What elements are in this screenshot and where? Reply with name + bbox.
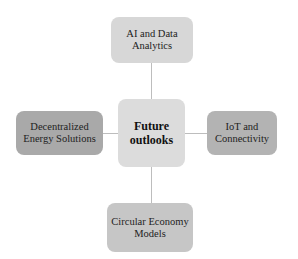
connector-top [151, 63, 152, 99]
node-left-label: Decentralized Energy Solutions [20, 121, 99, 145]
node-right: IoT and Connectivity [207, 111, 277, 155]
node-left: Decentralized Energy Solutions [16, 111, 103, 155]
connector-left [103, 133, 118, 134]
center-node: Future outlooks [118, 99, 185, 167]
center-node-label: Future outlooks [127, 119, 177, 147]
node-bottom: Circular Economy Models [107, 203, 193, 252]
node-top-label: AI and Data Analytics [115, 28, 189, 52]
node-top: AI and Data Analytics [111, 17, 193, 63]
connector-right [185, 133, 207, 134]
connector-bottom [151, 167, 152, 203]
node-right-label: IoT and Connectivity [211, 121, 273, 145]
node-bottom-label: Circular Economy Models [111, 216, 189, 240]
